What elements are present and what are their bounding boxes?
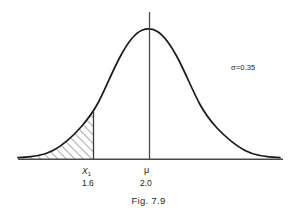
sigma-annotation: σ=0.35 xyxy=(231,64,255,72)
figure-container: σ=0.35 X1 1.6 μ 2.0 Fig. 7.9 xyxy=(0,0,297,217)
shaded-tail-region xyxy=(14,105,98,161)
figure-caption: Fig. 7.9 xyxy=(0,196,297,206)
x1-tick-symbol: X1 xyxy=(82,167,91,177)
mu-tick-value: 2.0 xyxy=(140,179,152,188)
mu-tick-symbol: μ xyxy=(144,166,149,175)
x1-tick-subscript: 1 xyxy=(88,171,91,177)
x1-tick-value: 1.6 xyxy=(82,179,94,188)
